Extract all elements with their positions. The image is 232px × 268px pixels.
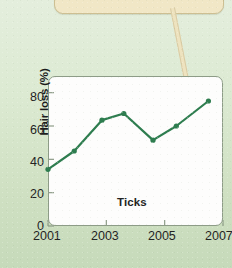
plot-svg [48,76,223,226]
y-tick-marks [48,93,54,226]
y-tick-label-40: 40 [18,156,44,169]
page-background: Hair loss (%) 80 60 40 20 0 2001 2003 20… [0,0,232,268]
x-tick-label-2005: 2005 [148,230,176,243]
x-tick-marks [48,220,223,226]
y-tick-label-20: 20 [18,188,44,201]
line-chart: Hair loss (%) 80 60 40 20 0 2001 2003 20… [0,0,232,268]
x-tick-label-2007: 2007 [205,230,232,243]
x-tick-label-2001: 2001 [33,230,61,243]
x-tick-label-2003: 2003 [91,230,119,243]
series-markers-ticks [45,98,211,172]
y-tick-label-60: 60 [18,124,44,137]
y-tick-label-80: 80 [18,91,44,104]
series-line-ticks [48,101,208,169]
y-axis-ticks: 80 60 40 20 0 [14,0,44,268]
x-axis-ticks: 2001 2003 2005 2007 [0,230,232,250]
